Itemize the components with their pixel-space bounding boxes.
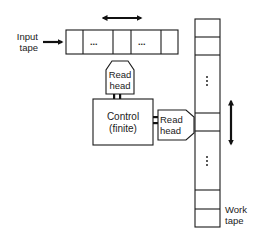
work-tape-vertical-ellipsis-2: [206, 156, 209, 166]
read-head-top-line1: Read: [106, 69, 134, 80]
input-tape-label: Input tape: [10, 31, 38, 53]
work-tape-vertical-ellipsis-1: [206, 76, 209, 86]
read-head-right-line2: head: [160, 125, 183, 136]
read-head-right-line1: Read: [160, 114, 183, 125]
input-tape-cell-ellipsis-2: ...: [138, 38, 146, 47]
read-head-right-label: Read head: [160, 114, 183, 136]
input-tape: [66, 30, 178, 54]
input-tape-cell-ellipsis-1: ...: [90, 38, 98, 47]
input-tape-label-line2: tape: [10, 42, 38, 53]
work-tape-label-line1: Work: [225, 204, 247, 215]
control-line2: (finite): [93, 123, 153, 135]
work-tape-label-line2: tape: [225, 215, 247, 226]
read-head-top-label: Read head: [106, 69, 134, 91]
input-tape-label-line1: Input: [10, 31, 38, 42]
control-label: Control (finite): [93, 111, 153, 135]
work-tape-label: Work tape: [225, 204, 247, 226]
read-head-top-line2: head: [106, 80, 134, 91]
work-tape: [195, 19, 220, 227]
control-line1: Control: [93, 111, 153, 123]
